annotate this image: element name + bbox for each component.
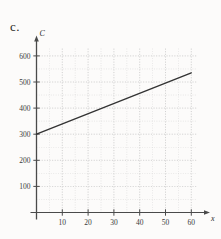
y-tick-label: 200 [19,156,31,165]
grid-minor-vertical [49,49,178,213]
x-tick-label: 50 [162,218,170,227]
x-tick-label: 40 [136,218,144,227]
x-tick-label: 60 [188,218,196,227]
y-tick-label: 400 [19,104,31,113]
y-axis-label: C [40,29,46,38]
x-axis [31,210,210,215]
chart-figure: 102030405060 100200300400500600 x C [0,0,221,239]
y-tick-label: 600 [19,52,31,61]
x-tick-label: 30 [110,218,118,227]
x-axis-tick-labels: 102030405060 [59,218,196,227]
y-tick-label: 100 [19,182,31,191]
x-axis-label: x [210,214,215,223]
x-tick-label: 10 [59,218,67,227]
y-axis-tick-labels: 100200300400500600 [19,52,31,192]
y-tick-label: 300 [19,130,31,139]
y-axis [34,36,39,220]
chart-svg: 102030405060 100200300400500600 x C [0,0,221,239]
x-tick-label: 20 [84,218,92,227]
y-tick-label: 500 [19,78,31,87]
